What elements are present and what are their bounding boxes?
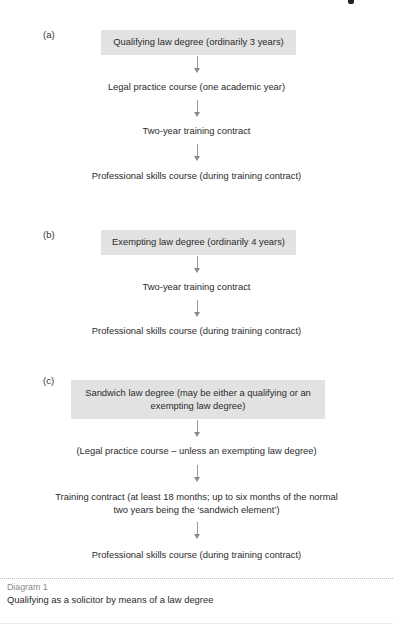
panel-label-a: (a)	[43, 29, 55, 40]
start-box-text: Exempting law degree (ordinarily 4 years…	[112, 236, 285, 249]
step-training-contract: Two-year training contract	[0, 125, 393, 138]
start-box-text: Qualifying law degree (ordinarily 3 year…	[113, 36, 283, 49]
caption-divider	[0, 578, 393, 579]
step-training-contract-line1: Training contract (at least 18 months; u…	[0, 491, 393, 504]
start-box-text-line2: exempting law degree)	[151, 400, 246, 413]
bottom-divider	[0, 623, 393, 624]
step-professional-skills-course: Professional skills course (during train…	[0, 549, 393, 562]
step-professional-skills-course: Professional skills course (during train…	[0, 325, 393, 338]
page-corner-glyph-fragment	[348, 0, 354, 4]
start-box-exempting-degree: Exempting law degree (ordinarily 4 years…	[101, 230, 296, 255]
panel-label-b: (b)	[43, 229, 55, 240]
start-box-sandwich-degree: Sandwich law degree (may be either a qua…	[71, 380, 325, 419]
step-legal-practice-course-optional: (Legal practice course – unless an exemp…	[0, 445, 393, 458]
step-professional-skills-course: Professional skills course (during train…	[0, 170, 393, 183]
step-legal-practice-course: Legal practice course (one academic year…	[0, 81, 393, 94]
caption-text: Qualifying as a solicitor by means of a …	[7, 594, 213, 605]
panel-label-c: (c)	[43, 375, 54, 386]
start-box-qualifying-degree: Qualifying law degree (ordinarily 3 year…	[101, 30, 296, 55]
step-training-contract-line2: two years being the ‘sandwich element’)	[0, 504, 393, 517]
step-training-contract: Two-year training contract	[0, 281, 393, 294]
caption-label: Diagram 1	[7, 582, 48, 592]
start-box-text-line1: Sandwich law degree (may be either a qua…	[85, 387, 311, 400]
